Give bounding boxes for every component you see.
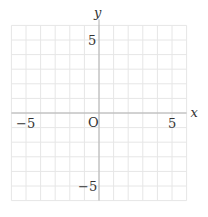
y-tick-label: −5 — [78, 179, 97, 194]
y-tick-label: 5 — [88, 33, 96, 48]
x-tick-label: 5 — [168, 116, 176, 131]
x-tick-label: −5 — [16, 116, 35, 131]
x-axis-label: x — [191, 105, 199, 120]
coordinate-plane: x y O −5 5 5 −5 — [0, 0, 208, 217]
origin-label: O — [88, 115, 99, 130]
y-axis-label: y — [93, 5, 102, 20]
